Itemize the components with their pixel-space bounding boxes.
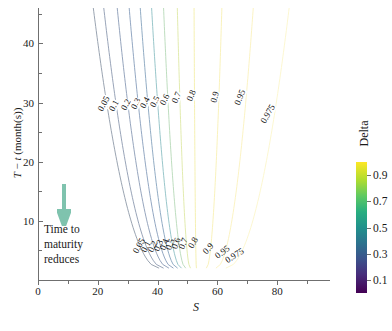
contour-line — [194, 8, 196, 268]
y-title-T: T — [11, 172, 23, 178]
x-axis-minor-tick — [187, 281, 188, 284]
y-axis-tick — [39, 221, 43, 222]
y-title-units: (month(s)) — [11, 108, 23, 158]
x-axis-minor-tick — [307, 281, 308, 284]
y-axis-tick — [39, 103, 43, 104]
contour-line — [177, 8, 190, 268]
y-title-minus: − — [11, 161, 23, 173]
y-axis-tick — [39, 162, 43, 163]
colorbar-tick — [367, 254, 371, 255]
contour-line — [164, 8, 186, 268]
x-axis-line — [38, 280, 330, 281]
y-axis-title: T − t (month(s)) — [11, 78, 23, 208]
colorbar-tick — [367, 201, 371, 202]
colorbar-tick-label: 0.5 — [373, 222, 387, 234]
annotation-line-2: maturity — [44, 237, 118, 252]
x-axis-minor-tick — [68, 281, 69, 284]
x-axis-minor-tick — [128, 281, 129, 284]
colorbar-title: Delta — [357, 108, 372, 160]
annotation-text: Time to maturity reduces — [44, 222, 118, 268]
annotation-line-3: reduces — [44, 252, 118, 267]
x-axis-title: S — [0, 300, 392, 315]
contour-line — [216, 8, 253, 268]
colorbar-tick-label: 0.7 — [373, 195, 387, 207]
colorbar-tick-label: 0.1 — [373, 274, 387, 286]
y-axis-line — [38, 8, 39, 280]
colorbar-tick — [367, 175, 371, 176]
y-axis-tick-label: 10 — [14, 215, 34, 227]
contour-line — [140, 8, 177, 268]
y-title-t: t — [11, 157, 23, 160]
colorbar-tick-label: 0.3 — [373, 248, 387, 260]
y-axis-minor-tick — [39, 191, 42, 192]
x-axis-tick-label: 60 — [212, 285, 223, 297]
x-axis-tick-label: 80 — [272, 285, 283, 297]
down-arrow-icon — [57, 184, 71, 226]
colorbar-gradient — [356, 162, 367, 293]
contour-line — [226, 8, 289, 268]
colorbar-tick — [367, 280, 371, 281]
y-axis-minor-tick — [39, 250, 42, 251]
x-axis-tick-label: 0 — [35, 285, 41, 297]
colorbar-tick — [367, 228, 371, 229]
chart-figure: 02040608010203040 S T − t (month(s)) 0.0… — [0, 0, 392, 331]
x-axis-tick-label: 40 — [152, 285, 163, 297]
y-axis-tick — [39, 43, 43, 44]
y-axis-minor-tick — [39, 14, 42, 15]
x-axis-minor-tick — [247, 281, 248, 284]
annotation-line-1: Time to — [44, 222, 118, 237]
contour-line — [206, 8, 222, 268]
y-axis-tick-label: 40 — [14, 37, 34, 49]
y-axis-minor-tick — [39, 132, 42, 133]
colorbar-tick-label: 0.9 — [373, 169, 387, 181]
x-axis-tick-label: 20 — [92, 285, 103, 297]
y-axis-minor-tick — [39, 73, 42, 74]
